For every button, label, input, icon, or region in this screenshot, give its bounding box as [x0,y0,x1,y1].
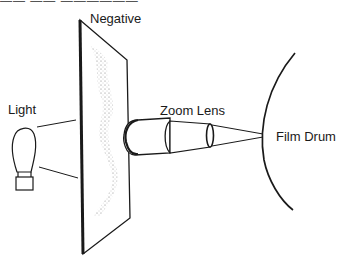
light-ray-bottom [39,167,78,178]
label-light: Light [8,103,36,116]
negative-plate [80,20,130,254]
label-zoom-lens: Zoom Lens [160,104,225,117]
light-bulb-icon [12,128,36,190]
zoom-lens [124,118,263,155]
light-ray-top [37,120,76,127]
label-negative: Negative [90,12,141,25]
label-film-drum: Film Drum [276,130,336,143]
